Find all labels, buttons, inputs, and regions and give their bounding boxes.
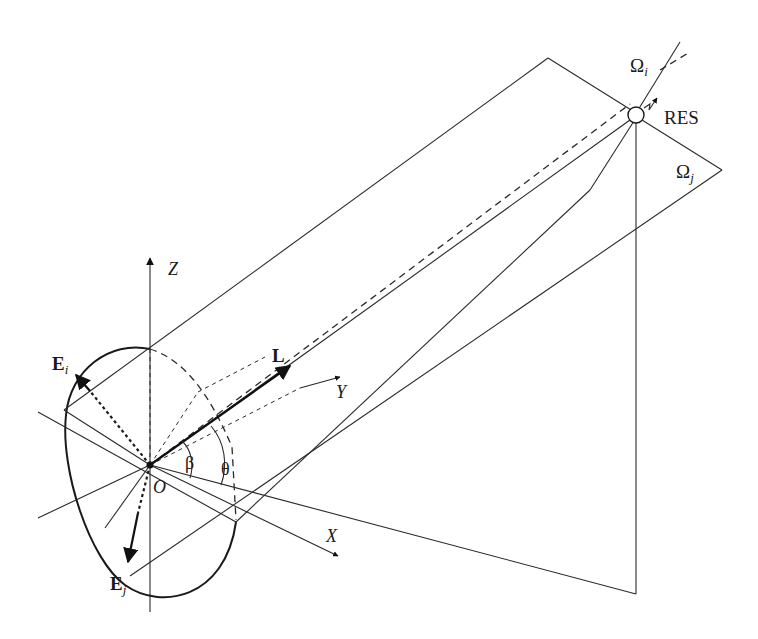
beam-lower-bend [590,121,634,190]
geometry-diagram: Z Y X O L β θ Ei Ej Ωi Ωj RES [0,0,758,639]
beam-top-cap [548,58,636,113]
cross-line-b [38,465,150,518]
dashed-diag2 [198,357,265,392]
label-beta: β [185,453,194,473]
omega-j-lower-edge [130,170,722,576]
ei-vector [76,375,90,391]
origin-point [147,462,154,469]
label-ej: Ej [110,573,127,597]
signal-zigzag-icon [644,98,657,110]
label-res: RES [664,107,699,128]
beam-top-line [64,58,548,410]
label-l: L [272,345,285,366]
ej-dotted [138,465,150,513]
label-omega-j: Ωj [676,161,694,185]
polarization-ellipse [65,347,236,597]
label-origin: O [153,477,166,497]
label-theta: θ [221,459,230,479]
label-ei: Ei [52,353,69,377]
label-omega-i: Ωi [630,55,648,79]
beam-lower-line [236,190,590,522]
ei-dotted [90,391,150,465]
label-z: Z [168,259,179,279]
y-axis-tip [300,377,340,388]
label-y: Y [336,382,348,402]
label-x: X [325,526,338,546]
dashed-los-line [150,104,630,465]
cross-line-c [64,410,150,465]
res-receiver [628,107,644,123]
y-axis [150,388,300,465]
ground-line [150,465,636,594]
ej-vector [128,513,138,562]
